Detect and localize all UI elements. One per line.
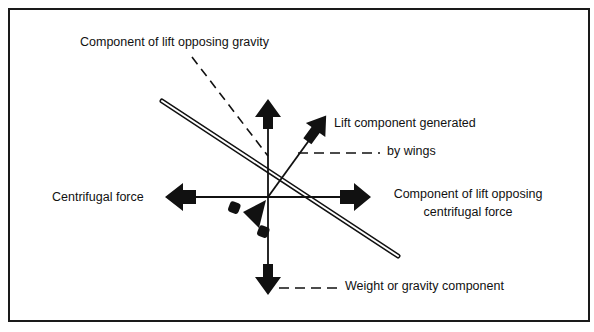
arrow-lift-icon <box>298 108 336 148</box>
arrow-left-icon <box>165 183 196 211</box>
label-lift-generated-line1: Lift component generated <box>334 114 476 132</box>
label-lift-opposing-centrifugal-line2: centrifugal force <box>378 203 558 221</box>
arrow-right-icon <box>340 183 371 211</box>
label-centrifugal-force: Centrifugal force <box>52 188 144 206</box>
label-lift-generated-line2: by wings <box>387 142 436 160</box>
label-weight-component: Weight or gravity component <box>345 277 504 295</box>
label-lift-opposing-gravity: Component of lift opposing gravity <box>80 33 269 51</box>
label-lift-opposing-centrifugal-line1: Component of lift opposing <box>378 185 558 203</box>
arrow-down-icon <box>255 264 281 295</box>
aircraft-icon <box>227 200 270 239</box>
leader-lift-opposing-gravity <box>192 57 268 156</box>
label-lift-opposing-centrifugal: Component of lift opposing centrifugal f… <box>378 185 558 221</box>
arrow-up-icon <box>255 99 281 129</box>
